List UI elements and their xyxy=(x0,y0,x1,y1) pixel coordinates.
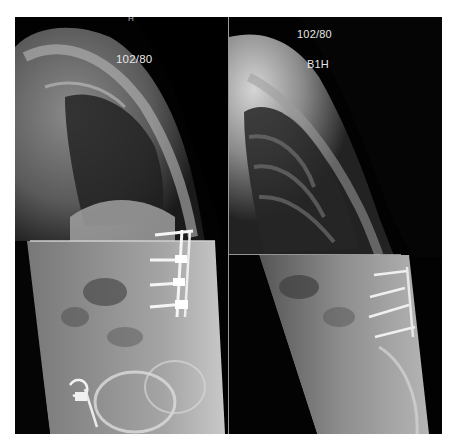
radiograph-figure: H 102/80 xyxy=(15,17,442,434)
right-radiograph-image xyxy=(229,17,442,434)
orientation-marker: H xyxy=(128,17,134,23)
right-bp-label: 102/80 xyxy=(297,28,332,40)
right-id-label: B1H xyxy=(307,58,329,70)
right-radiograph-panel: 102/80 B1H xyxy=(229,17,442,434)
left-radiograph-image xyxy=(15,17,228,434)
left-bp-label: 102/80 xyxy=(116,53,152,65)
left-radiograph-panel: H 102/80 xyxy=(15,17,228,434)
